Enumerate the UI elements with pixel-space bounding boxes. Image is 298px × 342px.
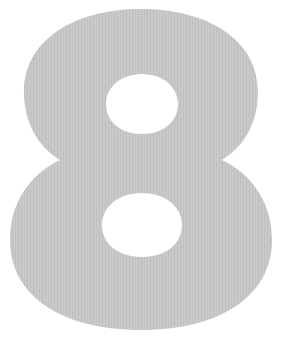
- eight-glyph-icon: [0, 0, 298, 342]
